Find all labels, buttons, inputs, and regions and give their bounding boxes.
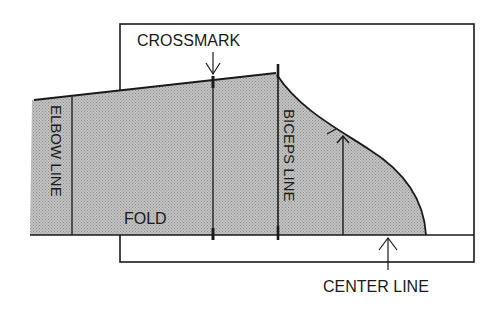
center-line-label: CENTER LINE <box>323 278 429 295</box>
crossmark-label: CROSSMARK <box>137 32 240 49</box>
biceps-line-label: BICEPS LINE <box>281 109 298 202</box>
fold-label: FOLD <box>124 210 167 227</box>
elbow-line-label: ELBOW LINE <box>48 105 65 197</box>
sleeve-pattern-diagram: CROSSMARK ELBOW LINE BICEPS LINE FOLD CE… <box>0 0 500 310</box>
